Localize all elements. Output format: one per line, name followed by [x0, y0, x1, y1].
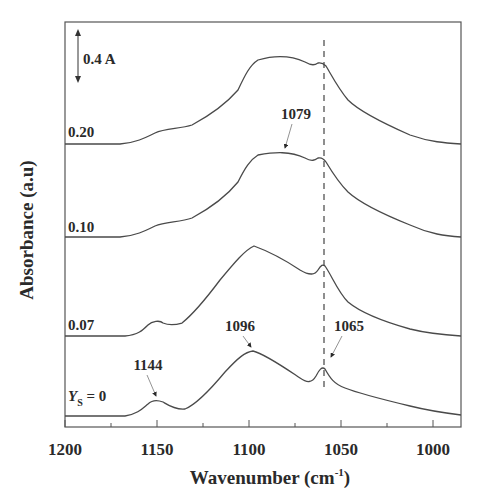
- trace-label-Ys0: YS = 0: [68, 388, 106, 408]
- trace-0.20: [65, 56, 461, 144]
- peak-label-1079: 1079: [281, 106, 311, 122]
- peak-arrow-1096: [243, 336, 251, 347]
- peak-label-1096: 1096: [225, 318, 256, 334]
- peak-label-1065: 1065: [334, 318, 364, 334]
- trace-Ys0: [65, 351, 461, 416]
- scale-bar: [75, 29, 81, 83]
- x-axis-title-close: ): [344, 467, 350, 489]
- peak-arrow-1079: [285, 124, 292, 148]
- ftir-chart: 1200 1150 1100 1050 1000 Wavenumber (cm-…: [0, 0, 483, 504]
- scale-bar-label: 0.4 A: [83, 51, 116, 67]
- trace-label-0.07: 0.07: [68, 317, 95, 333]
- x-tick-1100: 1100: [232, 440, 265, 459]
- x-axis-title: Wavenumber (cm-1): [190, 466, 350, 489]
- x-axis-title-main: Wavenumber (cm: [190, 467, 335, 489]
- x-axis-title-sup: -1: [335, 466, 344, 478]
- trace-label-0.10: 0.10: [68, 219, 94, 235]
- y-axis-title: Absorbance (a.u): [16, 160, 38, 299]
- peak-arrow-1144: [147, 375, 156, 396]
- x-axis-ticks: [65, 420, 433, 427]
- x-tick-1200: 1200: [48, 440, 82, 459]
- peak-arrow-1065: [331, 336, 342, 357]
- trace-label-0.20: 0.20: [68, 124, 94, 140]
- trace-0.10: [65, 153, 461, 237]
- x-tick-1050: 1050: [324, 440, 358, 459]
- trace-0.07: [65, 246, 461, 336]
- x-tick-1000: 1000: [416, 440, 450, 459]
- plot-frame: [65, 22, 461, 427]
- trace-label-Ys0-eq: = 0: [83, 388, 107, 404]
- peak-label-1144: 1144: [133, 357, 163, 373]
- x-tick-1150: 1150: [140, 440, 173, 459]
